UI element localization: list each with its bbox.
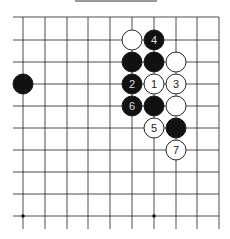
white-stone: 3 xyxy=(166,74,186,94)
black-stone xyxy=(144,96,164,116)
move-number: 1 xyxy=(151,78,157,90)
move-number: 6 xyxy=(129,100,135,112)
white-stone xyxy=(122,30,142,50)
black-stone: 6 xyxy=(122,96,142,116)
star-point xyxy=(21,214,25,218)
star-point xyxy=(152,214,156,218)
black-stone: 2 xyxy=(122,74,142,94)
white-stone: 7 xyxy=(166,140,186,160)
move-number: 4 xyxy=(151,34,157,46)
move-number: 3 xyxy=(173,78,179,90)
move-number: 7 xyxy=(173,144,179,156)
black-stone xyxy=(122,52,142,72)
white-stone: 5 xyxy=(144,118,164,138)
black-stone: 4 xyxy=(144,30,164,50)
white-stone xyxy=(166,52,186,72)
move-number: 2 xyxy=(129,78,135,90)
white-stone: 1 xyxy=(144,74,164,94)
black-stone xyxy=(13,74,33,94)
move-number: 5 xyxy=(151,122,157,134)
black-stone xyxy=(144,52,164,72)
white-stone xyxy=(166,96,186,116)
go-board: 4213657 xyxy=(0,0,230,239)
black-stone xyxy=(166,118,186,138)
